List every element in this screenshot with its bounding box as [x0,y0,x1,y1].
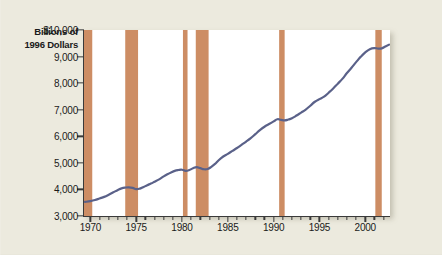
x-tick-label: 1975 [125,222,146,233]
x-tick-minor [200,216,201,220]
x-tick-minor [209,216,210,220]
recession-band [279,30,285,216]
x-tick-minor [337,216,338,220]
y-tick-label: 3,000 [0,211,78,222]
plot-area [84,30,390,216]
y-tick-label: 6,000 [0,131,78,142]
figure-root: Billions of 1996 Dollars 3,0004,0005,000… [0,0,442,255]
x-tick-minor [282,216,283,220]
y-tick [77,215,84,216]
x-tick-minor [218,216,219,220]
y-axis-title-line2: 1996 Dollars [0,39,78,52]
chart-svg [84,30,390,216]
y-tick [77,82,84,83]
y-tick-label: 5,000 [0,157,78,168]
recession-band [183,30,188,216]
x-tick-minor [145,216,146,220]
y-tick-label: 9,000 [0,51,78,62]
x-tick-minor [355,216,356,220]
plot-panel [84,30,390,216]
y-tick-label: 8,000 [0,78,78,89]
y-tick-label: $10,000 [0,25,78,36]
x-tick-minor [99,216,100,220]
x-tick-label: 1970 [80,222,101,233]
x-tick-label: 1980 [171,222,192,233]
x-tick-minor [346,216,347,220]
x-tick-minor [191,216,192,220]
y-tick [77,136,84,137]
x-tick-minor [291,216,292,220]
recession-band [196,30,209,216]
x-tick-minor [236,216,237,220]
x-tick-minor [255,216,256,220]
y-tick [77,162,84,163]
y-tick-label: 7,000 [0,104,78,115]
recession-band [375,30,381,216]
y-tick [77,56,84,57]
x-tick-minor [374,216,375,220]
x-tick-minor [154,216,155,220]
x-tick-minor [117,216,118,220]
x-tick-label: 1985 [217,222,238,233]
x-tick-minor [172,216,173,220]
x-tick-label: 1995 [309,222,330,233]
x-tick-minor [264,216,265,220]
x-tick-minor [328,216,329,220]
y-tick [77,109,84,110]
y-tick-label: 4,000 [0,184,78,195]
x-tick-label: 2000 [355,222,376,233]
x-tick-minor [163,216,164,220]
y-tick [77,29,84,30]
y-tick [77,189,84,190]
x-tick-minor [310,216,311,220]
recession-band [84,30,92,216]
x-tick-minor [246,216,247,220]
x-tick-minor [108,216,109,220]
x-tick-label: 1990 [263,222,284,233]
x-tick-minor [383,216,384,220]
x-tick-minor [300,216,301,220]
x-tick-minor [126,216,127,220]
